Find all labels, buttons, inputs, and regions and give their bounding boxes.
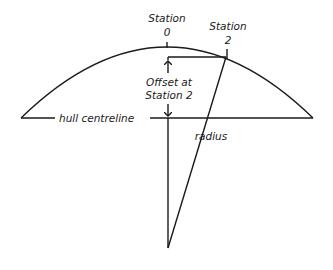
hull-offset-diagram: Station 0 Station 2 Offset at Station 2 … bbox=[0, 0, 333, 270]
centreline-label: hull centreline bbox=[59, 112, 134, 124]
offset-label-line1: Offset at bbox=[146, 76, 193, 88]
station0-number: 0 bbox=[164, 26, 171, 38]
offset-label-line2: Station 2 bbox=[145, 89, 193, 101]
station2-number: 2 bbox=[225, 34, 232, 46]
radius-label: radius bbox=[195, 130, 228, 142]
station0-label: Station bbox=[148, 12, 185, 24]
station2-label: Station bbox=[209, 20, 246, 32]
